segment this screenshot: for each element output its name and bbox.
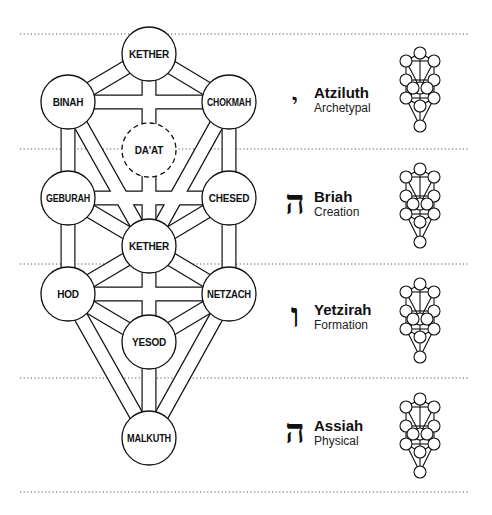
sephirah-netzach: NETZACH <box>202 267 256 321</box>
mini-tree-icon <box>400 47 440 132</box>
sephirah-label: DA'AT <box>135 145 164 156</box>
sephirah-yesod: YESOD <box>122 315 176 369</box>
world-subtitle: Creation <box>314 205 359 219</box>
sephirah-label: YESOD <box>132 337 166 348</box>
tree-of-life-diagram: KETHERBINAHCHOKMAHDA'ATGEBURAHCHESEDKETH… <box>0 0 492 515</box>
sephirah-label: GEBURAH <box>46 193 90 204</box>
mini-tree-icon <box>400 393 440 478</box>
sephirah-label: CHOKMAH <box>207 97 251 108</box>
world-assiah: ה Assiah Physical <box>282 419 402 459</box>
world-name: Atziluth <box>314 84 369 101</box>
sephirah-label: KETHER <box>129 49 170 60</box>
world-subtitle: Physical <box>314 434 359 448</box>
world-name: Briah <box>314 188 352 205</box>
hebrew-letter-yod-icon: י <box>282 88 308 115</box>
sephirah-label: HOD <box>57 289 79 300</box>
world-name: Yetzirah <box>314 301 372 318</box>
diagram-canvas: KETHERBINAHCHOKMAHDA'ATGEBURAHCHESEDKETH… <box>0 0 492 515</box>
hebrew-letter-he-icon: ה <box>282 182 308 222</box>
sephirah-label: MALKUTH <box>127 433 171 444</box>
sephirah-hod: HOD <box>41 267 95 321</box>
sephirah-chesed: CHESED <box>202 171 256 225</box>
world-briah: ה Briah Creation <box>282 190 402 230</box>
world-atziluth: י Atziluth Archetypal <box>282 90 402 130</box>
hebrew-letter-vav-icon: ו <box>282 295 308 335</box>
world-subtitle: Archetypal <box>314 101 371 115</box>
sephirah-geburah: GEBURAH <box>41 171 95 225</box>
mini-tree-icon <box>400 278 440 363</box>
sephirah-label: CHESED <box>209 193 249 204</box>
sephirah-daat: DA'AT <box>122 123 176 177</box>
sephirah-label: NETZACH <box>207 289 251 300</box>
sephirah-kether: KETHER <box>122 27 176 81</box>
mini-trees-group <box>400 47 440 478</box>
sephirah-binah: BINAH <box>41 75 95 129</box>
mini-tree-icon <box>400 163 440 248</box>
world-yetzirah: ו Yetzirah Formation <box>282 303 402 343</box>
sephirah-label: BINAH <box>53 97 84 108</box>
world-name: Assiah <box>314 417 363 434</box>
sephirah-chokmah: CHOKMAH <box>202 75 256 129</box>
world-subtitle: Formation <box>314 318 368 332</box>
sephirah-label: KETHER <box>129 241 170 252</box>
sephirah-malkuth: MALKUTH <box>122 411 176 465</box>
sephirah-tiphareth: KETHER <box>122 219 176 273</box>
hebrew-letter-he-icon: ה <box>282 411 308 451</box>
